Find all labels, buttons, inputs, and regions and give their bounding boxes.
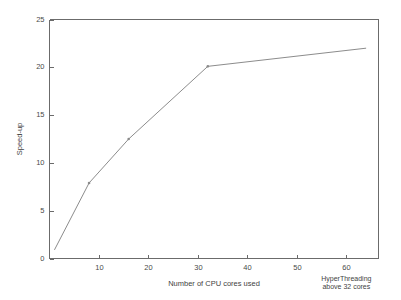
x-tick-label: 20 xyxy=(144,263,152,272)
series-line-speedup xyxy=(54,48,366,250)
data-point-marker xyxy=(88,182,91,185)
data-markers-group xyxy=(88,65,209,184)
axis-box xyxy=(50,20,379,259)
x-axis-ticks: 102030405060 xyxy=(95,255,350,272)
x-tick-label: 30 xyxy=(194,263,202,272)
x-tick-label: 60 xyxy=(342,263,350,272)
x-tick-label: 10 xyxy=(95,263,103,272)
y-tick-label: 15 xyxy=(36,110,44,119)
data-point-marker xyxy=(207,65,210,68)
plot-frame xyxy=(50,20,379,259)
y-tick-label: 25 xyxy=(36,15,44,24)
speedup-chart: 0510152025 102030405060 Number of CPU co… xyxy=(0,0,401,300)
chart-canvas: 0510152025 102030405060 Number of CPU co… xyxy=(0,0,401,300)
y-tick-label: 0 xyxy=(40,254,44,263)
data-series-group xyxy=(54,48,366,250)
data-point-marker xyxy=(127,138,130,141)
y-tick-label: 20 xyxy=(36,62,44,71)
y-tick-label: 10 xyxy=(36,158,44,167)
x-axis-title: Number of CPU cores used xyxy=(168,279,260,288)
hyperthreading-note-line2: above 32 cores xyxy=(322,283,370,290)
x-tick-label: 40 xyxy=(243,263,251,272)
y-axis-ticks: 0510152025 xyxy=(36,15,53,263)
x-tick-label: 50 xyxy=(293,263,301,272)
y-axis-title: Speed-up xyxy=(15,123,24,156)
chart-annotations: HyperThreadingabove 32 cores xyxy=(321,275,371,290)
y-tick-label: 5 xyxy=(40,206,44,215)
hyperthreading-note-line1: HyperThreading xyxy=(321,275,371,283)
